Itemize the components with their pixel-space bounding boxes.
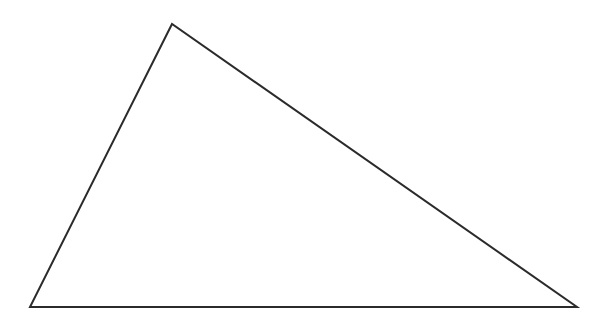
diagram-canvas — [0, 0, 605, 327]
triangle-shape — [30, 24, 577, 307]
